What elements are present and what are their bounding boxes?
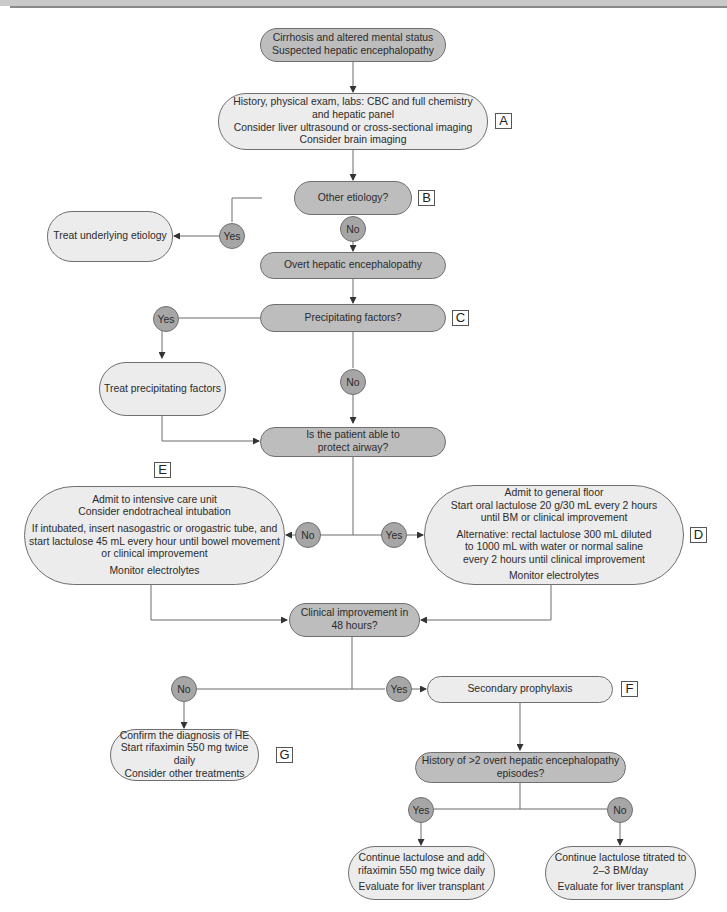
tag-b: B bbox=[418, 190, 435, 206]
node-text: Start oral lactulose 20 g/30 mL every 2 … bbox=[451, 500, 657, 513]
node-text: Consider other treatments bbox=[124, 768, 244, 781]
node-text: Suspected hepatic encephalopathy bbox=[272, 45, 434, 58]
node-text: 2–3 BM/day bbox=[593, 865, 648, 878]
node-text: History, physical exam, labs: CBC and fu… bbox=[233, 96, 472, 109]
node-text: Start rifaximin 550 mg twice daily bbox=[111, 742, 258, 767]
node-text: Is the patient able to bbox=[306, 429, 400, 442]
add-rifaximin-node: Continue lactulose and add rifaximin 550… bbox=[348, 846, 495, 900]
no-circle: No bbox=[340, 369, 366, 395]
yes-circle: Yes bbox=[153, 306, 179, 332]
yes-circle: Yes bbox=[386, 676, 412, 702]
no-circle: No bbox=[171, 676, 197, 702]
node-text: Consider endotracheal intubation bbox=[78, 506, 231, 519]
overt-he-node: Overt hepatic encephalopathy bbox=[260, 252, 446, 279]
node-text: Monitor electrolytes bbox=[109, 565, 199, 578]
node-text: 48 hours? bbox=[331, 620, 377, 633]
node-text: Cirrhosis and altered mental status bbox=[273, 32, 434, 45]
node-text: Treat precipitating factors bbox=[104, 383, 221, 396]
node-text: History of >2 overt hepatic encephalopat… bbox=[422, 755, 619, 768]
start-node: Cirrhosis and altered mental status Susp… bbox=[260, 28, 446, 62]
no-circle: No bbox=[340, 216, 366, 242]
node-text: Continue lactulose titrated to bbox=[555, 852, 687, 865]
node-text: Admit to intensive care unit bbox=[92, 494, 217, 507]
node-text: until BM or clinical improvement bbox=[481, 512, 628, 525]
node-text: Secondary prophylaxis bbox=[467, 683, 572, 696]
node-text: Alternative: rectal lactulose 300 mL dil… bbox=[457, 529, 652, 542]
tag-e: E bbox=[154, 462, 171, 478]
floor-node: Admit to general floor Start oral lactul… bbox=[424, 485, 684, 585]
tag-a: A bbox=[495, 113, 512, 129]
yes-circle: Yes bbox=[219, 223, 245, 249]
confirm-diagnosis-node: Confirm the diagnosis of HE Start rifaxi… bbox=[110, 729, 259, 781]
node-text: Overt hepatic encephalopathy bbox=[284, 259, 422, 272]
icu-node: Admit to intensive care unit Consider en… bbox=[24, 486, 285, 585]
node-text: Evaluate for liver transplant bbox=[558, 881, 684, 894]
tag-g: G bbox=[276, 747, 293, 763]
node-text: Other etiology? bbox=[318, 192, 388, 205]
treat-precipitating-node: Treat precipitating factors bbox=[99, 362, 226, 416]
improvement-decision: Clinical improvement in 48 hours? bbox=[289, 603, 420, 637]
node-text: to 1000 mL with water or normal saline bbox=[465, 541, 643, 554]
node-text: and hepatic panel bbox=[312, 109, 394, 122]
node-text: Treat underlying etiology bbox=[53, 230, 166, 243]
node-text: Monitor electrolytes bbox=[509, 570, 599, 583]
no-circle: No bbox=[295, 522, 321, 548]
node-text: rifaximin 550 mg twice daily bbox=[358, 865, 485, 878]
airway-decision: Is the patient able to protect airway? bbox=[260, 427, 446, 457]
node-text: start lactulose 45 mL every hour until b… bbox=[29, 536, 280, 549]
node-text: Confirm the diagnosis of HE bbox=[120, 730, 249, 743]
yes-circle: Yes bbox=[408, 797, 434, 823]
node-text: episodes? bbox=[497, 768, 544, 781]
secondary-prophylaxis-node: Secondary prophylaxis bbox=[427, 676, 613, 703]
tag-d: D bbox=[690, 527, 707, 543]
node-text: If intubated, insert nasogastric or orog… bbox=[32, 523, 277, 536]
treat-underlying-node: Treat underlying etiology bbox=[47, 211, 173, 262]
node-text: Evaluate for liver transplant bbox=[359, 881, 485, 894]
no-circle: No bbox=[607, 797, 633, 823]
other-etiology-decision: Other etiology? bbox=[294, 181, 412, 215]
node-text: or clinical improvement bbox=[101, 548, 207, 561]
node-text: every 2 hours until clinical improvement bbox=[463, 554, 645, 567]
titrate-lactulose-node: Continue lactulose titrated to 2–3 BM/da… bbox=[545, 846, 696, 900]
node-text: Consider liver ultrasound or cross-secti… bbox=[234, 122, 473, 135]
precipitating-decision: Precipitating factors? bbox=[260, 304, 446, 332]
tag-f: F bbox=[621, 681, 638, 697]
workup-node: History, physical exam, labs: CBC and fu… bbox=[218, 93, 488, 150]
node-text: Precipitating factors? bbox=[304, 312, 401, 325]
tag-c: C bbox=[452, 310, 469, 326]
node-text: Admit to general floor bbox=[505, 487, 604, 500]
node-text: Continue lactulose and add bbox=[359, 852, 485, 865]
node-text: Consider brain imaging bbox=[300, 134, 407, 147]
yes-circle: Yes bbox=[381, 522, 407, 548]
history-decision: History of >2 overt hepatic encephalopat… bbox=[415, 752, 626, 783]
node-text: Clinical improvement in bbox=[301, 607, 408, 620]
node-text: protect airway? bbox=[318, 442, 388, 455]
